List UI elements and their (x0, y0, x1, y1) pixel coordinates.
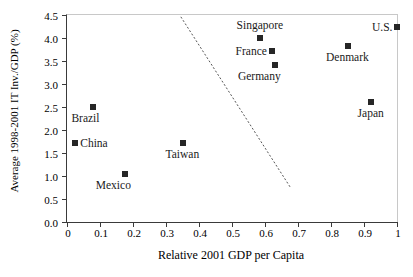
x-axis-tick: 0.5 (232, 222, 233, 227)
x-axis-tick-label: 0.5 (226, 228, 240, 239)
x-axis-tick: 0.1 (100, 222, 101, 227)
x-axis-tick-label: 0.8 (325, 228, 339, 239)
x-axis-tick-label: 0.7 (292, 228, 306, 239)
data-point-marker (180, 140, 186, 146)
data-point-marker (394, 24, 400, 30)
y-axis-tick: 2.0 (62, 130, 67, 131)
data-point-label: Mexico (96, 180, 131, 192)
data-point-label: China (80, 138, 107, 150)
data-point-label: Taiwan (166, 149, 200, 161)
x-axis-tick-label: 0.3 (160, 228, 174, 239)
x-axis-tick: 0.2 (133, 222, 134, 227)
y-axis-title: Average 1998-2001 IT Inv./GDP (%) (8, 11, 20, 211)
y-axis-tick-label: 2.0 (44, 126, 58, 137)
y-axis-tick-label: 0.0 (44, 218, 58, 229)
x-axis-tick-label: 1 (395, 228, 401, 239)
y-axis-tick: 0.5 (62, 199, 67, 200)
data-point-label: Japan (358, 108, 384, 120)
x-axis-tick: 0.7 (298, 222, 299, 227)
y-axis-tick: 4.5 (62, 15, 67, 16)
y-axis-tick: 3.5 (62, 61, 67, 62)
data-point-marker (272, 62, 278, 68)
x-axis-tick-label: 0 (65, 228, 71, 239)
y-axis-tick: 1.5 (62, 153, 67, 154)
data-point-label: Germany (238, 71, 281, 83)
data-point-label: France (236, 46, 267, 58)
x-axis-tick-label: 0.1 (94, 228, 108, 239)
x-axis-tick-label: 0.4 (193, 228, 207, 239)
data-point-marker (345, 43, 351, 49)
y-axis-tick-label: 4.0 (44, 34, 58, 45)
x-axis-tick: 0.4 (199, 222, 200, 227)
x-axis-tick-label: 0.6 (259, 228, 273, 239)
x-axis-tick: 0.3 (166, 222, 167, 227)
data-point-marker (122, 171, 128, 177)
x-axis-tick-label: 0.9 (358, 228, 372, 239)
x-axis-tick-label: 0.2 (127, 228, 141, 239)
y-axis-tick-label: 1.5 (44, 149, 58, 160)
y-axis-tick-label: 4.5 (44, 11, 58, 22)
y-axis-tick-label: 2.5 (44, 103, 58, 114)
data-point-marker (257, 35, 263, 41)
y-axis-tick-label: 3.0 (44, 80, 58, 91)
y-axis-tick: 2.5 (62, 107, 67, 108)
data-point-label: Singapore (237, 20, 284, 32)
y-axis-tick-label: 3.5 (44, 57, 58, 68)
x-axis-tick: 0.8 (331, 222, 332, 227)
y-axis-tick: 3.0 (62, 84, 67, 85)
x-axis-title: Relative 2001 GDP per Capita (66, 248, 396, 263)
data-point-marker (368, 99, 374, 105)
x-axis-tick: 1 (397, 222, 398, 227)
y-axis-tick: 1.0 (62, 176, 67, 177)
frontier-line-segment (181, 17, 291, 188)
data-point-marker (72, 140, 78, 146)
y-axis-tick-label: 1.0 (44, 172, 58, 183)
data-point-marker (90, 104, 96, 110)
data-point-label: Denmark (326, 52, 369, 64)
x-axis-tick: 0.6 (265, 222, 266, 227)
x-axis-tick: 0.9 (364, 222, 365, 227)
y-axis-tick: 4.0 (62, 38, 67, 39)
data-point-label: Brazil (71, 113, 99, 125)
data-point-label: U.S. (372, 22, 392, 34)
plot-area: ChinaBrazilMexicoTaiwanSingaporeFranceGe… (66, 14, 398, 223)
data-point-marker (269, 48, 275, 54)
chart-figure: Average 1998-2001 IT Inv./GDP (%) ChinaB… (0, 0, 413, 277)
y-axis-tick-label: 0.5 (44, 195, 58, 206)
x-axis-tick: 0 (67, 222, 68, 227)
